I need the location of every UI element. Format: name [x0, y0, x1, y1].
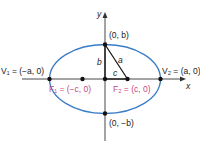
point-bottom: [103, 111, 107, 115]
f1-label: F₁ = (−c, 0): [49, 84, 91, 94]
top-vertex-label: (0, b): [109, 30, 129, 40]
segment-a-label: a: [118, 55, 123, 65]
point-f1: [80, 77, 84, 81]
ellipse-diagram: y x (0, b) (0, −b) V₁ = (−a, 0) V₂ = (a,…: [0, 0, 200, 141]
f2-label: F₂ = (c, 0): [113, 84, 151, 94]
segment-c-label: c: [113, 68, 118, 78]
point-top: [103, 42, 107, 46]
point-v1: [47, 77, 51, 81]
y-axis-label: y: [96, 9, 102, 19]
segment-b-label: b: [97, 57, 102, 67]
v2-label: V₂ = (a, 0): [162, 66, 200, 76]
x-axis-label: x: [185, 81, 191, 91]
point-v2: [158, 77, 162, 81]
y-axis-arrow-icon: [103, 12, 108, 18]
bottom-vertex-label: (0, −b): [109, 118, 134, 128]
v1-label: V₁ = (−a, 0): [1, 66, 44, 76]
point-f2: [125, 77, 129, 81]
point-center: [103, 77, 107, 81]
ellipse-figure: y x (0, b) (0, −b) V₁ = (−a, 0) V₂ = (a,…: [0, 0, 200, 141]
